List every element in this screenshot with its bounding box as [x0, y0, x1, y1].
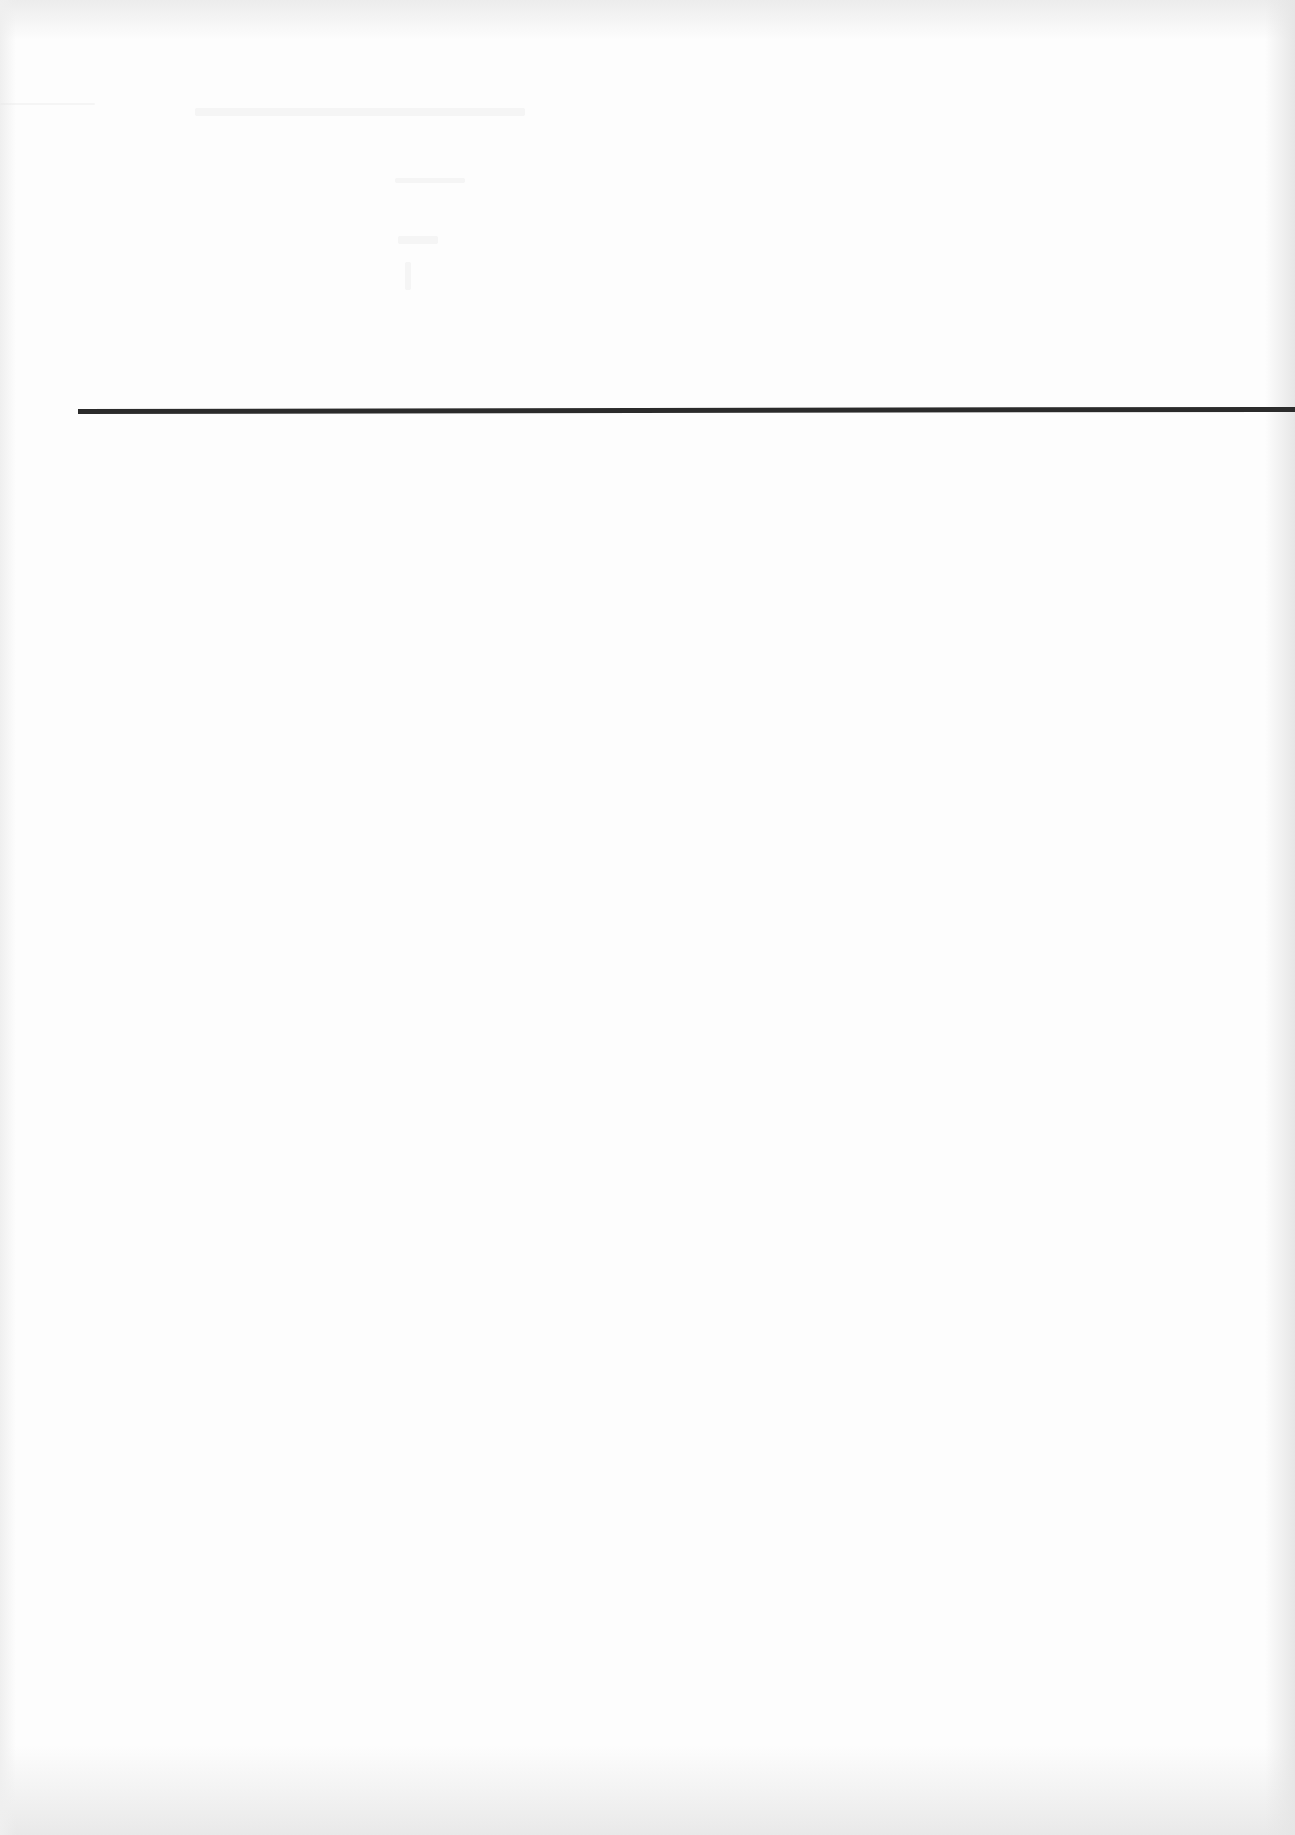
bleed-through-mark: [195, 108, 525, 116]
bleed-through-mark: [405, 262, 411, 290]
bleed-through-mark: [395, 178, 465, 183]
scan-edge-shadow-bottom: [0, 1745, 1295, 1835]
scanned-page: [0, 0, 1295, 1835]
scan-edge-shadow-top: [0, 0, 1295, 40]
scan-edge-shadow-right: [1265, 0, 1295, 1835]
horizontal-rule: [78, 407, 1295, 414]
scan-edge-shadow-left: [0, 0, 16, 1835]
bleed-through-mark: [0, 103, 95, 105]
bleed-through-mark: [398, 236, 438, 244]
